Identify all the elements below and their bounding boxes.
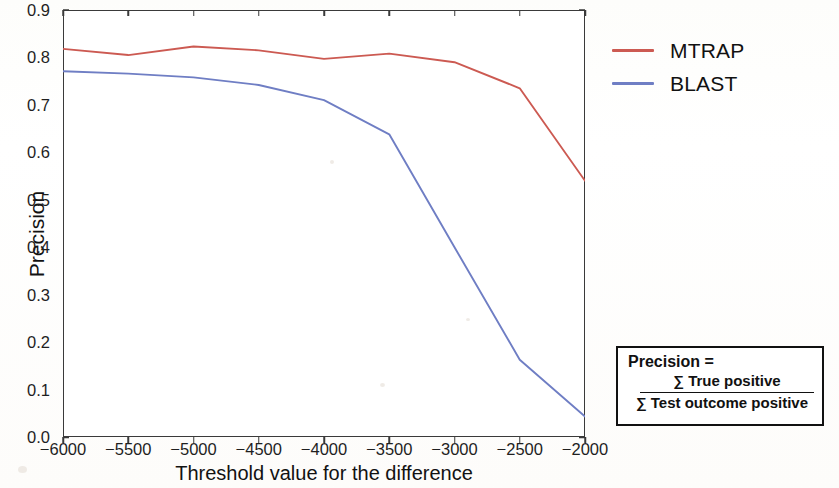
formula-numerator: ∑ True positive xyxy=(640,372,814,393)
precision-formula-box: Precision = ∑ True positive ∑ Test outco… xyxy=(616,346,824,426)
precision-threshold-figure: Precision 0.00.10.20.30.40.50.60.70.80.9… xyxy=(0,0,839,488)
x-axis-title: Threshold value for the difference xyxy=(63,462,585,485)
x-tick-mark-top xyxy=(258,10,260,16)
legend-item-mtrap: MTRAP xyxy=(612,34,812,67)
x-tick-label: −4500 xyxy=(236,441,282,458)
x-tick-label: −3000 xyxy=(431,441,477,458)
y-tick-label: 0.2 xyxy=(27,334,50,351)
scan-speck xyxy=(466,318,470,321)
y-axis-tick-labels: 0.00.10.20.30.40.50.60.70.80.9 xyxy=(0,10,58,437)
legend-swatch-mtrap xyxy=(612,49,654,52)
x-tick-mark-top xyxy=(454,10,456,16)
series-line-blast xyxy=(63,71,585,416)
x-tick-mark-top xyxy=(193,10,195,16)
x-tick-label: −5000 xyxy=(170,441,216,458)
x-tick-label: −2500 xyxy=(497,441,543,458)
legend-label-mtrap: MTRAP xyxy=(670,39,745,63)
formula-heading: Precision = xyxy=(628,353,814,371)
x-tick-label: −5500 xyxy=(105,441,151,458)
y-tick-label: 0.4 xyxy=(27,239,50,256)
y-tick-label: 0.3 xyxy=(27,286,50,303)
x-tick-mark-top xyxy=(389,10,391,16)
scan-speck xyxy=(330,160,334,164)
x-tick-label: −6000 xyxy=(40,441,86,458)
y-tick-label: 0.1 xyxy=(27,381,50,398)
x-tick-mark-top xyxy=(323,10,325,16)
y-tick-label: 0.9 xyxy=(27,2,50,19)
chart-legend: MTRAP BLAST xyxy=(612,34,812,100)
series-line-mtrap xyxy=(63,47,585,181)
x-tick-mark-top xyxy=(128,10,130,16)
x-tick-label: −3500 xyxy=(366,441,412,458)
formula-denominator: ∑ Test outcome positive xyxy=(630,393,814,413)
legend-swatch-blast xyxy=(612,82,654,85)
y-tick-label: 0.7 xyxy=(27,97,50,114)
scan-speck xyxy=(18,466,27,473)
y-tick-label: 0.6 xyxy=(27,144,50,161)
legend-label-blast: BLAST xyxy=(670,72,738,96)
formula-fraction: ∑ True positive ∑ Test outcome positive xyxy=(628,372,814,413)
x-tick-label: −2000 xyxy=(562,441,608,458)
x-tick-mark-top xyxy=(584,10,586,16)
plot-area xyxy=(63,10,585,437)
y-tick-label: 0.8 xyxy=(27,49,50,66)
y-tick-label: 0.5 xyxy=(27,192,50,209)
x-tick-mark-top xyxy=(519,10,521,16)
legend-item-blast: BLAST xyxy=(612,67,812,100)
chart-lines xyxy=(63,10,585,437)
x-tick-label: −4000 xyxy=(301,441,347,458)
scan-speck xyxy=(380,383,385,387)
x-tick-mark-top xyxy=(62,10,64,16)
